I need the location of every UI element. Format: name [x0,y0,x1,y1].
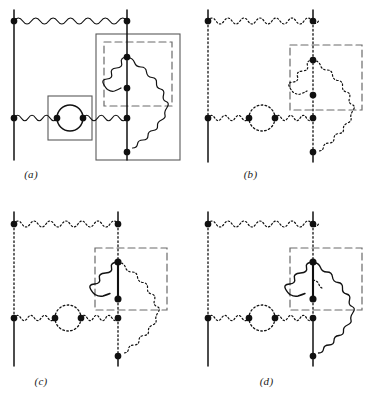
photon-bottom-right [275,315,313,320]
photon-bottom-left [208,315,249,320]
inner-photon-loop [103,57,127,91]
inner-self-energy-box [290,248,362,310]
inner-photon-loop [285,262,313,296]
vertex [124,18,129,23]
vertex [115,296,121,302]
vertex [78,315,83,320]
vertex [272,315,277,320]
vertex [115,221,120,226]
vertex [310,221,315,226]
photon-top [14,221,118,227]
vertex [80,115,85,120]
photon-bottom-right [275,115,313,120]
panel-d-caption: (d) [174,375,359,387]
vertex [310,149,315,154]
vertex [205,18,210,23]
vacuum-bubble [57,105,83,131]
figure-container: (a) [0,0,371,405]
vacuum-bubble [249,105,275,131]
photon-top [208,221,319,227]
vertex [115,315,120,320]
panel-c: (c) [0,200,186,405]
vertex [246,115,251,120]
photon-bottom-left [14,115,57,121]
vertex [310,259,316,265]
vertex [310,18,315,23]
outer-photon-arc [313,262,354,353]
vertex [11,315,16,320]
outer-vertex-box [96,34,180,160]
panel-d: (d) [186,200,371,405]
vacuum-bubble [55,305,81,331]
vertex [310,92,315,97]
vertex [124,149,129,154]
vertex [310,115,315,120]
vertex [11,18,16,23]
inner-self-energy-box [95,248,167,310]
photon-bottom-right [83,115,127,121]
vertex [310,296,316,302]
vertex [246,315,251,320]
vertex [310,353,315,358]
panel-c-caption: (c) [0,375,134,387]
inner-photon-stub [313,280,324,289]
vertex [115,259,121,265]
photon-top [14,18,127,24]
vertex [310,315,315,320]
outer-photon-arc [313,60,354,151]
panel-b: (b) [186,0,371,200]
vertex [310,57,315,62]
vertex [124,115,129,120]
vertex [52,315,57,320]
vertex [54,115,59,120]
vertex [115,353,120,358]
vertex [205,115,210,120]
panel-a-caption: (a) [0,168,124,180]
inner-self-energy-box [290,45,362,110]
outer-photon-arc [127,57,168,148]
vertex [11,115,16,120]
vertex [272,115,277,120]
vertex [205,221,210,226]
inner-photon-loop [90,262,118,296]
panel-b-caption: (b) [158,168,343,180]
vacuum-bubble [249,305,275,331]
inner-photon-loop [289,60,313,94]
inner-self-energy-box [104,42,172,106]
vertex [11,221,16,226]
photon-bottom-left [14,315,55,320]
photon-bottom-right [81,315,118,320]
photon-top [208,18,319,24]
vertex [205,315,210,320]
photon-bottom-left [208,115,249,120]
outer-photon-arc [118,262,159,353]
vertex [124,85,129,90]
vertex [124,54,129,59]
